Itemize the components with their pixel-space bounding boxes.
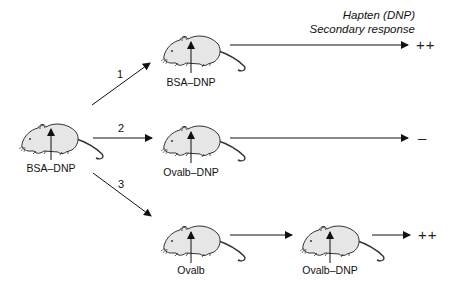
mouse-route2: [161, 126, 245, 161]
header-line2: Secondary response: [310, 22, 415, 36]
response-header: Hapten (DNP) Secondary response: [310, 8, 415, 36]
mouse-route1: [161, 36, 245, 71]
header-line1: Hapten (DNP): [310, 8, 415, 22]
mouse-label-route2: Ovalb–DNP: [163, 166, 218, 178]
result-route2: –: [418, 129, 427, 146]
result-route1: ++: [416, 36, 436, 53]
route-number-1: 1: [117, 68, 123, 80]
route-arrows: [92, 45, 410, 235]
mouse-route3b: [300, 226, 384, 261]
mouse-label-route1: BSA–DNP: [166, 76, 215, 88]
route-number-3: 3: [118, 178, 124, 190]
mouse-label-primary: BSA–DNP: [26, 162, 75, 174]
mouse-primary: [19, 124, 103, 159]
mouse-route3a: [161, 226, 245, 261]
route-number-2: 2: [118, 122, 124, 134]
mouse-label-route3b: Ovalb–DNP: [302, 264, 357, 276]
immunization-diagram: [0, 0, 461, 286]
result-route3: ++: [418, 226, 438, 243]
mouse-label-route3a: Ovalb: [177, 264, 204, 276]
